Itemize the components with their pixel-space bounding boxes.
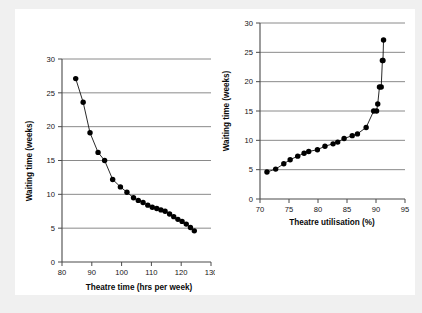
data-point bbox=[118, 184, 123, 189]
y-tick-label: 5 bbox=[51, 224, 55, 233]
data-point bbox=[102, 158, 107, 163]
y-tick-label: 15 bbox=[245, 107, 253, 116]
data-point bbox=[330, 141, 335, 146]
figure-root: 051015202530 8090100110120130 Theatre ti… bbox=[0, 0, 422, 313]
data-point bbox=[87, 130, 92, 135]
data-point bbox=[380, 58, 385, 63]
data-point bbox=[281, 161, 286, 166]
y-tick-label: 20 bbox=[245, 77, 253, 86]
x-tick-label: 80 bbox=[58, 268, 66, 277]
data-point bbox=[162, 209, 167, 214]
chart-theatre-utilisation-svg: 051015202530 707580859095 Theatre utilis… bbox=[211, 9, 415, 295]
y-tick-label: 25 bbox=[47, 89, 55, 98]
data-point bbox=[131, 195, 136, 200]
series-line-right bbox=[267, 40, 384, 172]
y-tick-label: 25 bbox=[245, 48, 253, 57]
x-tick-label: 85 bbox=[343, 205, 351, 214]
y-tick-label: 5 bbox=[249, 165, 253, 174]
data-point bbox=[124, 190, 129, 195]
y-tick-label: 30 bbox=[47, 55, 55, 64]
y-tick-label: 20 bbox=[47, 122, 55, 131]
data-point bbox=[110, 177, 115, 182]
x-axis-title-right: Theatre utilisation (%) bbox=[289, 218, 375, 227]
series-line-left bbox=[76, 79, 195, 231]
y-tick-label: 10 bbox=[47, 190, 55, 199]
y-tick-label: 30 bbox=[245, 19, 253, 28]
x-ticks-right: 707580859095 bbox=[256, 199, 409, 214]
x-tick-label: 70 bbox=[256, 205, 264, 214]
data-point bbox=[301, 151, 306, 156]
y-tick-label: 0 bbox=[249, 195, 253, 204]
x-tick-label: 120 bbox=[175, 268, 188, 277]
y-axis-title-left: Waiting time (weeks) bbox=[25, 120, 34, 201]
y-axis-title-right: Waiting time (weeks) bbox=[222, 70, 231, 151]
data-point bbox=[350, 133, 355, 138]
x-tick-label: 90 bbox=[88, 268, 96, 277]
x-tick-label: 100 bbox=[115, 268, 128, 277]
y-tick-label: 10 bbox=[245, 136, 253, 145]
data-point bbox=[95, 150, 100, 155]
x-ticks-left: 8090100110120130 bbox=[58, 262, 215, 277]
data-point bbox=[363, 125, 368, 130]
x-tick-label: 80 bbox=[314, 205, 322, 214]
chart-theatre-time: 051015202530 8090100110120130 Theatre ti… bbox=[15, 9, 215, 295]
data-point bbox=[375, 101, 380, 106]
chart-theatre-utilisation: 051015202530 707580859095 Theatre utilis… bbox=[211, 9, 415, 295]
data-point bbox=[374, 108, 379, 113]
data-point bbox=[355, 131, 360, 136]
data-point bbox=[80, 100, 85, 105]
data-point bbox=[140, 200, 145, 205]
data-point bbox=[192, 228, 197, 233]
x-tick-label: 90 bbox=[372, 205, 380, 214]
y-tick-label: 15 bbox=[47, 156, 55, 165]
data-point bbox=[322, 144, 327, 149]
y-ticks-right: 051015202530 bbox=[245, 19, 260, 204]
figure-panel: 051015202530 8090100110120130 Theatre ti… bbox=[15, 9, 415, 295]
series-markers-right bbox=[264, 37, 386, 174]
data-point bbox=[73, 76, 78, 81]
chart-theatre-time-svg: 051015202530 8090100110120130 Theatre ti… bbox=[15, 9, 215, 295]
data-point bbox=[306, 149, 311, 154]
x-tick-label: 95 bbox=[401, 205, 409, 214]
data-point bbox=[381, 37, 386, 42]
data-point bbox=[335, 139, 340, 144]
data-point bbox=[264, 169, 269, 174]
x-axis-title-left: Theatre time (hrs per week) bbox=[86, 283, 193, 292]
x-tick-label: 75 bbox=[285, 205, 293, 214]
data-point bbox=[287, 157, 292, 162]
data-point bbox=[136, 198, 141, 203]
data-point bbox=[184, 221, 189, 226]
y-ticks-left: 051015202530 bbox=[47, 55, 62, 267]
gridlines-left bbox=[62, 59, 211, 228]
data-point bbox=[341, 136, 346, 141]
y-tick-label: 0 bbox=[51, 258, 55, 267]
data-point bbox=[273, 166, 278, 171]
data-point bbox=[379, 84, 384, 89]
series-markers-left bbox=[73, 76, 197, 234]
x-tick-label: 110 bbox=[145, 268, 157, 277]
data-point bbox=[295, 153, 300, 158]
data-point bbox=[315, 147, 320, 152]
